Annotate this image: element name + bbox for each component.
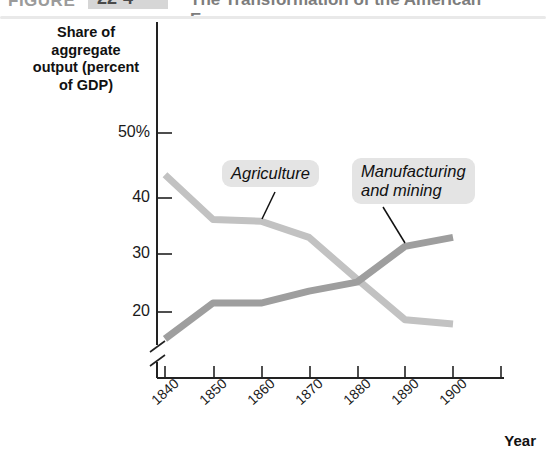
callout-manufacturing-and-mining: Manufacturing and mining — [352, 158, 475, 204]
callout-agriculture: Agriculture — [222, 160, 319, 187]
callout-leader-agriculture — [262, 192, 275, 219]
chart-plot-area — [0, 0, 546, 462]
figure-container: FIGURE 22-4 The Transformation of the Am… — [0, 0, 546, 462]
callout-leader-manufacturing — [383, 207, 405, 243]
